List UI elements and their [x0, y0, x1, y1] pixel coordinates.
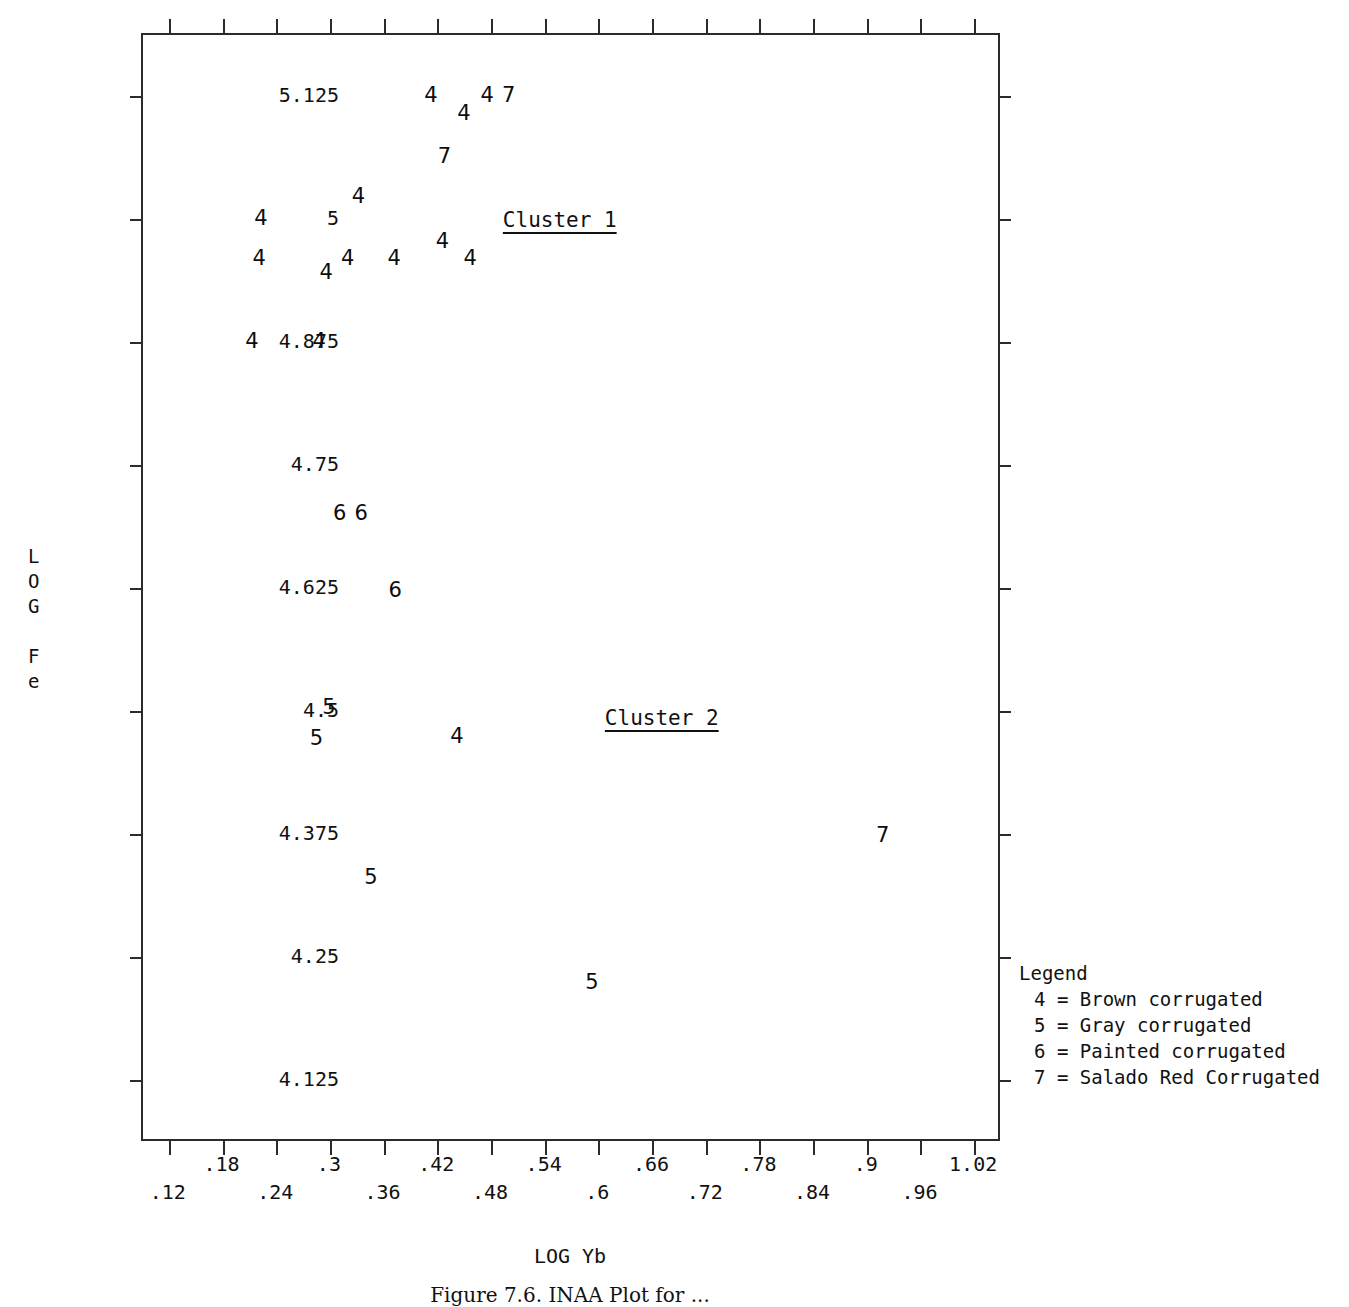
y-axis-tick-label: 5.125	[279, 83, 339, 107]
cluster-annotation: Cluster 1	[503, 208, 617, 232]
plot-frame	[141, 33, 1000, 1141]
x-axis-tick-label: .18	[203, 1152, 239, 1176]
x-tick-bottom	[920, 1140, 922, 1155]
data-point-marker: 6	[354, 503, 367, 524]
x-axis-tick-label: 1.02	[949, 1152, 997, 1176]
x-tick-top	[491, 19, 493, 34]
y-tick-right	[998, 834, 1011, 836]
x-axis-tick-label: .72	[687, 1180, 723, 1204]
x-tick-top	[223, 19, 225, 34]
legend-item: 7 = Salado Red Corrugated	[1034, 1064, 1320, 1090]
y-tick-left	[130, 957, 143, 959]
y-tick-left	[130, 96, 143, 98]
data-point-marker: 4	[481, 84, 494, 105]
x-tick-top	[545, 19, 547, 34]
x-axis-tick-label: .3	[317, 1152, 341, 1176]
y-axis-tick-label: 4.125	[279, 1067, 339, 1091]
y-tick-left	[130, 834, 143, 836]
data-point-marker: 6	[333, 503, 346, 524]
data-point-marker: 5	[585, 972, 598, 993]
legend-item: 6 = Painted corrugated	[1034, 1038, 1320, 1064]
data-point-marker: 4	[388, 248, 401, 269]
x-tick-bottom	[169, 1140, 171, 1155]
data-point-marker: 4	[320, 261, 333, 282]
y-tick-right	[998, 957, 1011, 959]
data-point-marker: 4	[464, 248, 477, 269]
y-tick-left	[130, 1080, 143, 1082]
legend: Legend 4 = Brown corrugated 5 = Gray cor…	[1019, 960, 1320, 1090]
x-axis-title: LOG Yb	[0, 1244, 1140, 1268]
y-tick-right	[998, 96, 1011, 98]
y-tick-right	[998, 219, 1011, 221]
y-axis-tick-label: 4.75	[291, 452, 339, 476]
y-axis-tick-label: 4.625	[279, 575, 339, 599]
data-point-marker: 4	[341, 248, 354, 269]
x-axis-tick-label: .9	[854, 1152, 878, 1176]
y-tick-right	[998, 342, 1011, 344]
data-point-marker: 4	[352, 186, 365, 207]
y-axis-tick-label: 4.25	[291, 944, 339, 968]
x-tick-bottom	[491, 1140, 493, 1155]
data-point-marker: 5	[310, 727, 323, 748]
x-tick-top	[437, 19, 439, 34]
x-tick-top	[330, 19, 332, 34]
x-axis-tick-label: .48	[472, 1180, 508, 1204]
data-point-marker: 7	[876, 824, 889, 845]
data-point-marker: 4	[254, 207, 267, 228]
y-tick-right	[998, 1080, 1011, 1082]
data-point-marker: 6	[388, 579, 401, 600]
y-tick-left	[130, 711, 143, 713]
x-tick-top	[598, 19, 600, 34]
x-axis-tick-label: .42	[418, 1152, 454, 1176]
data-point-marker: 4	[252, 248, 265, 269]
figure-caption: Figure 7.6. INAA Plot for ...	[0, 1283, 1140, 1307]
x-tick-top	[867, 19, 869, 34]
data-point-marker: 4	[424, 84, 437, 105]
x-tick-bottom	[706, 1140, 708, 1155]
x-axis-tick-label: .96	[901, 1180, 937, 1204]
x-axis-tick-label: .6	[585, 1180, 609, 1204]
y-tick-right	[998, 711, 1011, 713]
y-axis-title-line: G	[28, 594, 39, 619]
x-axis-tick-label: .24	[257, 1180, 293, 1204]
x-tick-top	[706, 19, 708, 34]
x-tick-top	[920, 19, 922, 34]
legend-item: 4 = Brown corrugated	[1034, 986, 1320, 1012]
x-tick-top	[169, 19, 171, 34]
x-tick-top	[974, 19, 976, 34]
y-tick-left	[130, 219, 143, 221]
x-tick-top	[759, 19, 761, 34]
x-tick-top	[276, 19, 278, 34]
y-tick-left	[130, 588, 143, 590]
y-axis-tick-label: 5	[327, 206, 339, 230]
cluster-annotation: Cluster 2	[605, 706, 719, 730]
y-axis-title-line: F	[28, 644, 39, 669]
x-axis-tick-label: .84	[794, 1180, 830, 1204]
x-axis-tick-label: .36	[365, 1180, 401, 1204]
data-point-marker: 4	[245, 330, 258, 351]
y-axis-title: L O G F e	[28, 544, 39, 694]
y-axis-title-line: L	[28, 544, 39, 569]
x-tick-top	[384, 19, 386, 34]
y-axis-title-line: O	[28, 569, 39, 594]
y-tick-right	[998, 465, 1011, 467]
y-tick-left	[130, 342, 143, 344]
legend-title: Legend	[1019, 960, 1320, 986]
y-tick-left	[130, 465, 143, 467]
legend-item: 5 = Gray corrugated	[1034, 1012, 1320, 1038]
data-point-marker: 4	[436, 230, 449, 251]
x-axis-tick-label: .12	[150, 1180, 186, 1204]
x-axis-tick-label: .66	[633, 1152, 669, 1176]
x-tick-bottom	[276, 1140, 278, 1155]
x-axis-tick-label: .78	[740, 1152, 776, 1176]
y-axis-title-spacer	[28, 619, 39, 644]
y-axis-title-line: e	[28, 669, 39, 694]
data-point-marker: 4	[457, 102, 470, 123]
x-axis-tick-label: .54	[526, 1152, 562, 1176]
data-point-marker: 7	[502, 84, 515, 105]
x-tick-top	[813, 19, 815, 34]
data-point-marker: 4	[450, 726, 463, 747]
data-point-marker: 5	[364, 867, 377, 888]
data-point-marker: 7	[438, 146, 451, 167]
